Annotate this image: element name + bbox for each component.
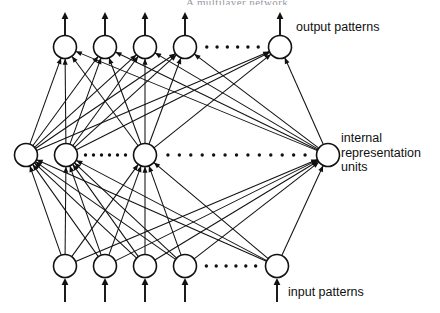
node-output-2 [94,36,117,59]
node-internal-4 [317,144,340,167]
label-internal-line2: representation [341,146,421,160]
edges-internal-to-output [30,51,323,150]
node-input-2 [94,255,117,278]
node-internal-1 [15,144,38,167]
label-input-patterns: input patterns [288,285,364,300]
node-input-3 [134,255,157,278]
node-output-4 [174,36,197,59]
label-output-patterns: output patterns [296,20,379,35]
node-internal-3 [134,144,157,167]
node-output-1 [54,36,77,59]
neural-network-figure: A multilayer network output patterns int… [0,0,440,313]
node-output-3 [134,36,157,59]
label-internal-representation-units: internalrepresentationunits [341,131,421,175]
node-input-1 [54,255,77,278]
node-output-5 [269,36,292,59]
edges-input-to-internal [30,159,324,261]
node-internal-2 [55,144,78,167]
label-internal-line3: units [341,160,367,174]
node-input-4 [174,255,197,278]
node-input-5 [266,255,289,278]
label-internal-line1: internal [341,131,382,145]
